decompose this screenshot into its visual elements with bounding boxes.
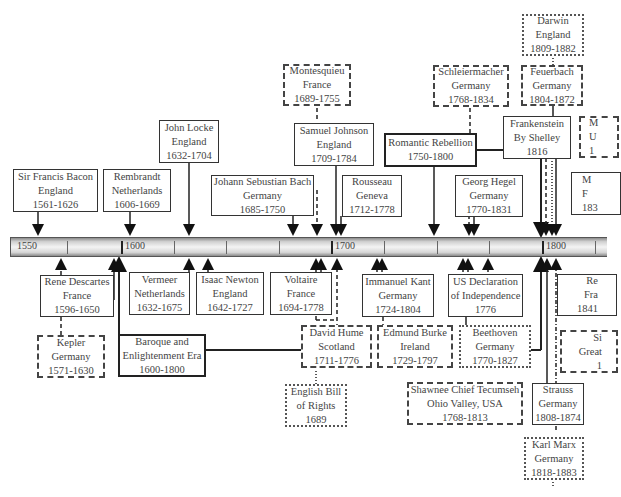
box-line: Kepler: [57, 336, 86, 350]
box-line: of Independence: [451, 289, 521, 303]
box-line: England: [317, 138, 352, 152]
box-line: Vermeer: [142, 273, 178, 287]
box-line: Montesquieu: [290, 64, 345, 78]
event-box-bacon: Sir Francis Bacon England 1561-1626: [13, 169, 98, 212]
box-line: 1685-1750: [240, 203, 286, 217]
box-line: England: [38, 184, 73, 198]
tick-minor: [279, 241, 280, 254]
box-line: Romantic Rebellion: [388, 136, 472, 150]
event-box-johnson: Samuel Johnson England 1709-1784: [294, 123, 374, 166]
tick-major-1700: [331, 241, 333, 254]
event-box-marx: Karl Marx Germany 1818-1883: [524, 437, 584, 480]
box-line: Re: [586, 274, 598, 288]
box-line: Great: [579, 345, 602, 359]
box-line: Schleiermacher: [438, 65, 503, 79]
box-line: By Shelley: [514, 131, 560, 145]
timeline-bar: 1550 1600 1700 1800: [10, 237, 607, 257]
box-line: Baroque and: [135, 335, 188, 349]
event-box-kepler: Kepler Germany 1571-1630: [37, 335, 105, 378]
tick-minor: [384, 241, 385, 254]
era-box-romantic-rebellion: Romantic Rebellion 1750-1800: [384, 133, 477, 167]
box-line: Germany: [538, 397, 577, 411]
box-line: Samuel Johnson: [300, 124, 369, 138]
box-line: 1632-1675: [137, 301, 183, 315]
event-box-hegel: Georg Hegel Germany 1770-1831: [455, 175, 523, 217]
event-box-kant: Immanuel Kant Germany 1724-1804: [362, 274, 434, 317]
box-line: Germany: [475, 340, 514, 354]
box-line: Ohio Valley, USA: [427, 397, 503, 411]
tick-minor: [595, 241, 596, 254]
box-line: Rousseau: [352, 175, 392, 189]
box-line: 1561-1626: [33, 198, 79, 212]
box-line: English Bill: [291, 385, 341, 399]
box-line: 1689: [306, 413, 327, 427]
box-line: Feuerbach: [530, 65, 574, 79]
box-line: Karl Marx: [532, 438, 576, 452]
event-box-rousseau: Rousseau Geneva 1712-1778: [342, 175, 402, 217]
tick-minor: [174, 241, 175, 254]
box-line: Germany: [532, 79, 571, 93]
box-line: 1816: [527, 145, 548, 159]
box-line: France: [303, 78, 332, 92]
box-line: Germany: [378, 289, 417, 303]
box-line: Darwin: [537, 14, 569, 28]
box-line: 183: [582, 201, 598, 215]
box-line: Frankenstein: [510, 117, 564, 131]
box-line: Netherlands: [112, 184, 163, 198]
event-box-newton: Isaac Newton England 1642-1727: [196, 272, 264, 315]
box-line: M: [582, 173, 591, 187]
tick-minor: [67, 241, 68, 254]
tick-minor: [226, 241, 227, 254]
box-line: 1808-1874: [535, 411, 581, 425]
box-line: 1711-1776: [314, 354, 359, 368]
box-line: Germany: [469, 189, 508, 203]
box-line: of Rights: [297, 399, 336, 413]
box-line: 1689-1755: [294, 92, 340, 106]
tick-minor: [437, 241, 438, 254]
box-line: M: [589, 116, 598, 130]
event-box-burke: Edmund Burke Ireland 1729-1797: [377, 325, 453, 368]
box-line: Ireland: [400, 340, 430, 354]
event-box-voltaire: Voltaire France 1694-1778: [270, 272, 332, 315]
event-box-locke: John Locke England 1632-1704: [159, 120, 219, 163]
event-box-hume: David Hume Scotland 1711-1776: [301, 325, 372, 368]
box-line: 1600-1800: [139, 363, 185, 377]
event-box-strauss: Strauss Germany 1808-1874: [532, 383, 584, 425]
box-line: Johann Sebustian Bach: [214, 175, 311, 189]
era-box-baroque-enlightenment: Baroque and Enlightenment Era 1600-1800: [118, 334, 206, 377]
box-line: 1606-1669: [114, 198, 160, 212]
box-line: Germany: [534, 452, 573, 466]
tick-label-1700: 1700: [335, 240, 355, 251]
tick-label-1600: 1600: [125, 240, 145, 251]
box-line: 1571-1630: [48, 364, 94, 378]
box-line: 1768-1834: [448, 93, 494, 107]
box-line: England: [213, 287, 248, 301]
box-line: US Declaration: [453, 275, 518, 289]
box-line: Fra: [584, 288, 598, 302]
box-line: Germany: [51, 350, 90, 364]
event-box-english-bill-of-rights: English Bill of Rights 1689: [285, 384, 347, 427]
tick-label-1800: 1800: [546, 240, 566, 251]
box-line: Germany: [451, 79, 490, 93]
event-box-feuerbach: Feuerbach Germany 1804-1872: [521, 65, 583, 106]
event-box-schleiermacher: Schleiermacher Germany 1768-1834: [433, 65, 509, 107]
box-line: Edmund Burke: [383, 326, 447, 340]
box-line: Sir Francis Bacon: [18, 170, 93, 184]
box-line: 1776: [475, 303, 496, 317]
box-line: 1768-1813: [442, 411, 488, 425]
box-line: Netherlands: [134, 287, 185, 301]
box-line: David Hume: [310, 326, 364, 340]
event-box-tecumseh: Shawnee Chief Tecumseh Ohio Valley, USA …: [407, 382, 523, 425]
tick-minor: [489, 241, 490, 254]
box-line: France: [287, 287, 316, 301]
box-line: Georg Hegel: [462, 175, 516, 189]
box-line: Germany: [243, 189, 282, 203]
box-line: John Locke: [165, 121, 214, 135]
box-line: 1596-1650: [54, 303, 100, 317]
box-line: Geneva: [356, 189, 388, 203]
event-box-rembrandt: Rembrandt Netherlands 1606-1669: [103, 169, 171, 212]
box-line: 1709-1784: [311, 152, 357, 166]
event-box-montesquieu: Montesquieu France 1689-1755: [283, 64, 351, 106]
box-line: Si: [593, 331, 602, 345]
